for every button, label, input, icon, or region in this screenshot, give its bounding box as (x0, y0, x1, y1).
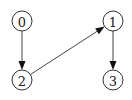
directed-graph: 0 1 2 3 (0, 0, 132, 100)
node-label: 2 (18, 74, 26, 89)
edge-0-to-2 (19, 31, 26, 70)
edge-line (30, 31, 97, 74)
node-0: 0 (12, 11, 32, 31)
node-2: 2 (12, 70, 32, 90)
edge-2-to-1 (30, 26, 104, 74)
arrowhead-icon (19, 61, 26, 70)
node-1: 1 (103, 11, 123, 31)
node-label: 1 (109, 15, 117, 30)
node-3: 3 (103, 70, 123, 90)
edges-layer (19, 26, 117, 74)
arrowhead-icon (110, 61, 117, 70)
edge-1-to-3 (110, 31, 117, 70)
node-label: 0 (18, 15, 26, 30)
node-label: 3 (109, 74, 117, 89)
arrowhead-icon (95, 26, 104, 34)
